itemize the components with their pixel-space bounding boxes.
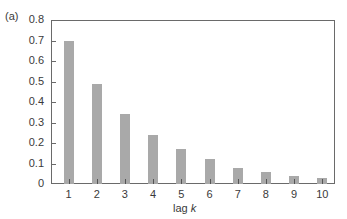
- x-tick: [266, 179, 267, 184]
- y-tick: [51, 41, 56, 42]
- y-tick: [51, 123, 56, 124]
- y-tick: [51, 143, 56, 144]
- x-tick: [181, 179, 182, 184]
- x-tick-label: 10: [312, 188, 332, 200]
- bar: [120, 114, 130, 184]
- y-tick-label: 0.8: [14, 13, 44, 25]
- y-tick-label: 0.4: [14, 95, 44, 107]
- x-tick: [238, 179, 239, 184]
- y-tick-label: 0.6: [14, 54, 44, 66]
- x-tick-label: 6: [200, 188, 220, 200]
- x-tick-label: 5: [171, 188, 191, 200]
- x-tick-label: 8: [256, 188, 276, 200]
- x-tick-label: 1: [59, 188, 79, 200]
- x-tick: [153, 179, 154, 184]
- bar: [64, 41, 74, 185]
- y-tick: [51, 61, 56, 62]
- x-tick: [322, 179, 323, 184]
- x-tick-label: 9: [284, 188, 304, 200]
- x-axis-label: lag k: [173, 202, 196, 214]
- x-tick: [125, 179, 126, 184]
- y-tick-label: 0.2: [14, 136, 44, 148]
- bar: [92, 84, 102, 184]
- x-tick: [69, 179, 70, 184]
- y-tick-label: 0.1: [14, 157, 44, 169]
- y-tick-label: 0.5: [14, 75, 44, 87]
- y-tick-label: 0: [14, 177, 44, 189]
- x-tick-label: 3: [115, 188, 135, 200]
- y-tick: [51, 164, 56, 165]
- x-tick: [210, 179, 211, 184]
- x-tick-label: 2: [87, 188, 107, 200]
- y-tick-label: 0.3: [14, 116, 44, 128]
- x-tick: [97, 179, 98, 184]
- y-tick: [51, 102, 56, 103]
- y-tick-label: 0.7: [14, 34, 44, 46]
- y-tick: [51, 82, 56, 83]
- x-tick: [294, 179, 295, 184]
- x-tick-label: 4: [143, 188, 163, 200]
- x-tick-label: 7: [228, 188, 248, 200]
- bar: [148, 135, 158, 184]
